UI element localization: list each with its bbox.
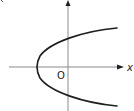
x-axis-label: x xyxy=(126,62,133,73)
y-axis-arrow-icon xyxy=(66,0,71,6)
x-axis-arrow-icon xyxy=(117,65,124,70)
origin-label: O xyxy=(57,70,65,81)
corner-mark xyxy=(1,0,3,2)
parabola-diagram: x O xyxy=(0,0,134,111)
